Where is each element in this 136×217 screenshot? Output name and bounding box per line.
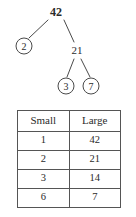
tree-node-rr: 7 [83, 78, 100, 95]
factor-tree-diagram: 4222137 [0, 0, 136, 100]
column-header-large: Large [69, 111, 121, 132]
cell-small: 1 [18, 132, 70, 151]
tree-node-right: 21 [72, 45, 83, 56]
cell-small: 3 [18, 170, 70, 189]
table-row: 67 [18, 189, 121, 208]
column-header-small: Small [18, 111, 70, 132]
cell-small: 6 [18, 189, 70, 208]
table-row: 142 [18, 132, 121, 151]
tree-node-rl: 3 [58, 78, 75, 95]
tree-node-left: 2 [16, 38, 33, 55]
cell-large: 14 [69, 170, 121, 189]
tree-edge-root-left [29, 20, 48, 38]
cell-large: 42 [69, 132, 121, 151]
table-row: 314 [18, 170, 121, 189]
cell-large: 21 [69, 151, 121, 170]
table-header-row: Small Large [18, 111, 121, 132]
cell-large: 7 [69, 189, 121, 208]
tree-edge-right-rl [67, 59, 74, 77]
cell-small: 2 [18, 151, 70, 170]
table-row: 221 [18, 151, 121, 170]
tree-edge-root-right [64, 20, 74, 42]
tree-edge-right-rr [81, 59, 90, 77]
tree-node-root: 42 [50, 6, 62, 18]
factor-pairs-table: Small Large 14222131467 [17, 110, 121, 208]
